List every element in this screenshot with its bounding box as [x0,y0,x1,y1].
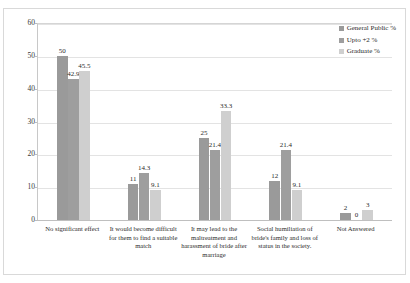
bar-group: 5042.945.5 [38,23,109,220]
bar-value-label: 45.5 [78,63,90,70]
chart-legend: General Public %Upto +2 %Graduate % [339,25,396,55]
bar[interactable]: 50 [57,23,68,220]
bar[interactable]: 12 [269,23,280,220]
bar-rect: 21.4 [210,150,221,220]
bar-value-label: 11 [130,176,137,183]
bar-value-label: 21.4 [280,142,292,149]
bar-value-label: 14.3 [138,165,150,172]
bar-rect: 14.3 [139,173,150,220]
legend-item[interactable]: General Public % [339,25,396,32]
x-axis-category-label: Social humiliation of bride's family and… [250,225,319,251]
bar[interactable]: 21.4 [210,23,221,220]
bar-group: 2521.433.3 [180,23,251,220]
y-axis-tick-label: 40 [9,85,35,93]
bar-value-label: 25 [200,130,207,137]
bar-rect: 25 [199,138,210,220]
bar[interactable]: 25 [199,23,210,220]
bar[interactable]: 11 [128,23,139,220]
bar-rect: 12 [269,181,280,220]
y-axis-tick-label: 20 [9,150,35,158]
bar-value-label: 42.9 [67,71,79,78]
x-axis-category-label: Not Answered [321,225,390,234]
bar-rect: 9.1 [150,190,161,220]
bar-rect: 42.9 [68,79,79,220]
legend-label: Graduate % [347,48,380,55]
chart-container: 0102030405060 5042.945.51114.39.12521.43… [3,8,406,275]
bar-rect: 9.1 [292,190,303,220]
x-axis-category-label: No significant effect [38,225,107,234]
y-axis-tick-label: 10 [9,183,35,191]
y-axis: 0102030405060 [4,9,35,224]
x-axis-baseline [37,220,392,221]
bar-value-label: 9.1 [151,182,160,189]
y-axis-tick-label: 50 [9,52,35,60]
bar-value-label: 9.1 [293,182,302,189]
legend-item[interactable]: Graduate % [339,48,396,55]
bar-rect: 11 [128,184,139,220]
y-axis-tick-label: 60 [9,19,35,27]
bar-value-label: 3 [366,202,370,209]
bar-value-label: 2 [344,205,348,212]
bar-value-label: 0 [355,212,359,219]
bar-value-label: 50 [59,48,66,55]
x-axis-labels: No significant effectIt would become dif… [37,225,392,273]
bar-rect: 3 [362,210,373,220]
bar-value-label: 21.4 [209,142,221,149]
x-axis-category-label: It would become difficult for them to fi… [109,225,178,251]
bar[interactable]: 9.1 [292,23,303,220]
legend-label: Upto +2 % [347,37,378,44]
bar[interactable]: 33.3 [221,23,232,220]
bar[interactable]: 14.3 [139,23,150,220]
bar[interactable]: 9.1 [150,23,161,220]
bar-rect: 21.4 [281,150,292,220]
bar-rect: 33.3 [221,111,232,220]
y-axis-tick-label: 0 [9,216,35,224]
bar-value-label: 12 [271,173,278,180]
bar[interactable]: 42.9 [68,23,79,220]
bar-rect: 2 [340,213,351,220]
x-axis-category-label: It may lead to the maltreatment and hara… [180,225,249,259]
bar[interactable]: 21.4 [281,23,292,220]
y-axis-tick-label: 30 [9,118,35,126]
bar-group: 1221.49.1 [250,23,321,220]
legend-swatch-icon [339,26,344,31]
legend-item[interactable]: Upto +2 % [339,37,396,44]
bar-rect: 50 [57,56,68,220]
bar-rect: 45.5 [79,71,90,220]
bar[interactable]: 45.5 [79,23,90,220]
bar-value-label: 33.3 [220,103,232,110]
legend-swatch-icon [339,38,344,43]
legend-label: General Public % [347,25,396,32]
legend-swatch-icon [339,49,344,54]
bar-group: 1114.39.1 [109,23,180,220]
